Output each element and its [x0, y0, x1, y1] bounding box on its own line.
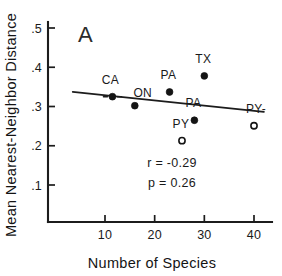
data-point-label: PY	[173, 117, 190, 131]
y-tick-label: .3	[31, 100, 42, 114]
y-axis-title: Mean Nearest-Neighbor Distance	[3, 13, 19, 237]
tick-marks	[48, 28, 254, 222]
x-tick-label: 40	[247, 228, 261, 242]
y-tick-label: .5	[31, 22, 42, 36]
correlation-annotation: r = -0.29	[147, 156, 197, 170]
axes	[48, 22, 272, 222]
y-tick-label: .4	[31, 61, 42, 75]
y-tick-label: .2	[31, 139, 42, 153]
data-point-filled	[201, 72, 208, 79]
data-point-labels: CAONPATXPAPYPY-	[102, 52, 266, 131]
data-point-filled	[131, 102, 138, 109]
data-point-label: ON	[133, 86, 152, 100]
pvalue-annotation: p = 0.26	[148, 176, 196, 190]
data-point-label: PA	[185, 96, 201, 110]
x-tick-label: 30	[197, 228, 211, 242]
x-tick-label: 20	[148, 228, 162, 242]
x-axis-title: Number of Species	[88, 255, 216, 271]
data-point-filled	[191, 117, 198, 124]
y-tick-label: .1	[31, 179, 42, 193]
data-point-open	[251, 123, 257, 129]
scatter-plot-figure: .1.2.3.4.510203040 CAONPATXPAPYPY- A r =…	[0, 0, 282, 276]
data-point-label: CA	[102, 73, 119, 87]
data-point-open	[179, 138, 185, 144]
plot-canvas: .1.2.3.4.510203040 CAONPATXPAPYPY- A r =…	[0, 0, 282, 276]
data-point-filled	[166, 89, 173, 96]
data-point-filled	[109, 93, 116, 100]
tick-labels: .1.2.3.4.510203040	[31, 22, 261, 243]
data-point-label: PA	[161, 68, 177, 82]
data-point-label: TX	[195, 52, 211, 66]
panel-label: A	[78, 22, 93, 47]
data-point-label: PY-	[246, 102, 266, 116]
x-tick-label: 10	[98, 228, 112, 242]
